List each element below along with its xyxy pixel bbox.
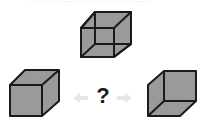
solid-cube-left-icon (10, 70, 59, 116)
right-arrow-icon (117, 93, 132, 103)
puzzle-canvas (0, 0, 204, 131)
question-mark: ? (93, 84, 113, 108)
solid-cube-right-icon (148, 71, 196, 116)
wireframe-cube-icon (81, 12, 131, 57)
left-arrow-icon (73, 93, 88, 103)
